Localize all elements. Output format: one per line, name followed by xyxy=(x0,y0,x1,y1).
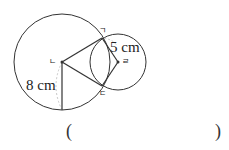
point-label-b: ㄴ xyxy=(49,58,56,66)
center-point-d xyxy=(117,61,120,64)
point-label-c: ㄷ xyxy=(99,90,106,98)
large-radius-label: 8 cm xyxy=(26,78,56,93)
point-label-a: ㄱ xyxy=(99,27,106,35)
radius-arc-dashed xyxy=(56,62,62,110)
small-radius-label: 5 cm xyxy=(110,40,140,55)
center-point-b xyxy=(61,61,64,64)
answer-blank[interactable] xyxy=(80,124,210,140)
answer-open-paren: ( xyxy=(66,122,72,140)
answer-close-paren: ) xyxy=(215,122,221,140)
segment-b-c xyxy=(62,62,102,86)
point-label-d: ㄹ xyxy=(122,58,129,66)
segment-b-a xyxy=(62,38,102,62)
